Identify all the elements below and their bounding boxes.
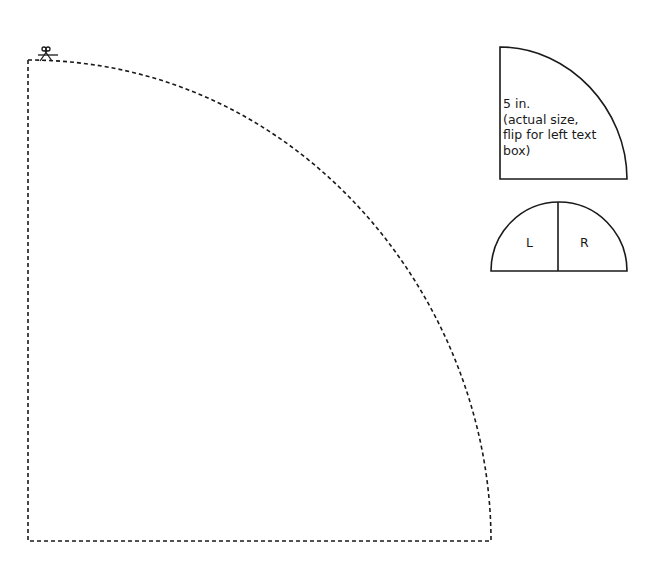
small-template-label: 5 in. (actual size, flip for left text b… [503, 96, 596, 158]
size-label: 5 in. [503, 96, 596, 112]
size-note-line: flip for left text [503, 127, 596, 143]
size-note-line: (actual size, [503, 112, 596, 128]
scissors-icon [38, 47, 58, 61]
pattern-canvas [0, 0, 652, 566]
half-circle-template [491, 202, 627, 271]
size-note-line: box) [503, 143, 596, 159]
right-label: R [580, 235, 589, 251]
large-quarter-circle-template [28, 60, 491, 541]
left-label: L [526, 235, 533, 251]
